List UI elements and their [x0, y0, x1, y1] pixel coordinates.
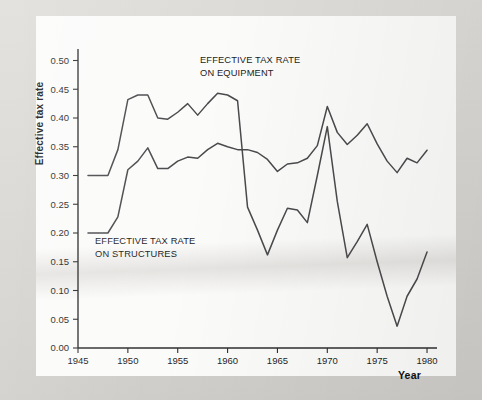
x-tick-label: 1945 [67, 355, 88, 366]
x-axis-ticks: 19451950195519601965197019751980 [67, 348, 437, 366]
y-tick-label: 0.05 [51, 314, 70, 325]
annotation-structures-line1: EFFECTIVE TAX RATE [95, 236, 195, 246]
annotation-equipment-line2: ON EQUIPMENT [200, 68, 274, 78]
y-tick-label: 0.40 [51, 112, 70, 123]
y-tick-label: 0.00 [51, 342, 70, 353]
scanned-page: Effective tax rate Year 0.000.050.100.15… [0, 0, 482, 400]
x-tick-label: 1970 [317, 355, 338, 366]
y-tick-label: 0.45 [51, 84, 70, 95]
line-series-equipment [88, 93, 427, 326]
y-tick-label: 0.10 [51, 285, 70, 296]
chart-svg: 0.000.050.100.150.200.250.300.350.400.45… [0, 0, 482, 400]
y-tick-label: 0.35 [51, 141, 70, 152]
annotation-equipment-line1: EFFECTIVE TAX RATE [200, 55, 300, 65]
x-tick-label: 1980 [416, 355, 437, 366]
y-tick-label: 0.25 [51, 199, 70, 210]
y-tick-label: 0.20 [51, 227, 70, 238]
y-axis-ticks: 0.000.050.100.150.200.250.300.350.400.45… [51, 55, 79, 354]
y-tick-label: 0.15 [51, 256, 70, 267]
x-tick-label: 1965 [267, 355, 288, 366]
x-tick-label: 1950 [117, 355, 138, 366]
y-tick-label: 0.50 [51, 55, 70, 66]
x-tick-label: 1960 [217, 355, 238, 366]
annotation-structures-line2: ON STRUCTURES [95, 249, 177, 259]
chart-figure: Effective tax rate Year 0.000.050.100.15… [0, 0, 482, 400]
x-tick-label: 1975 [367, 355, 388, 366]
line-series-structures [88, 107, 427, 234]
x-tick-label: 1955 [167, 355, 188, 366]
y-tick-label: 0.30 [51, 170, 70, 181]
